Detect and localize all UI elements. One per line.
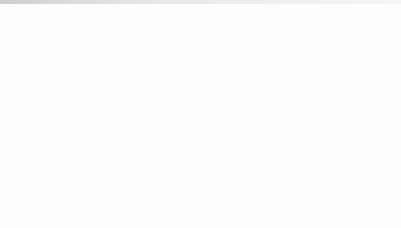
figure-row-delta-b (0, 114, 401, 228)
figure-canvas (0, 0, 401, 228)
figure-row-delta-v (0, 0, 401, 114)
